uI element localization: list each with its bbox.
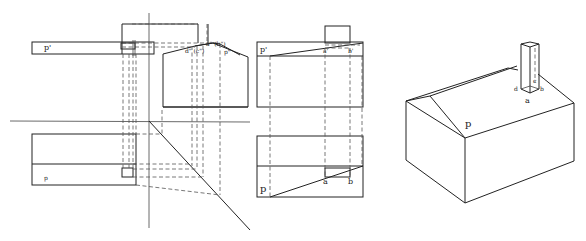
label-d-c-double-prime: d" (c") xyxy=(185,47,204,54)
label-p-prime: p' xyxy=(260,45,267,54)
technical-drawing: p' p a" (b") d" (c") p" p' a' b' p a b xyxy=(0,0,586,241)
middle-two-view: p' a' b' p a b xyxy=(257,26,363,197)
gable-end-face xyxy=(406,101,465,203)
label-a: a xyxy=(525,96,530,105)
miter-line xyxy=(149,121,250,230)
label-d: d xyxy=(514,85,518,92)
label-p-double-prime: p" xyxy=(224,48,231,56)
label-b-prime: b' xyxy=(348,47,354,54)
label-p-prime: p' xyxy=(44,43,51,52)
label-p: p xyxy=(465,118,471,129)
chimney xyxy=(521,42,539,93)
middle-top-chimney xyxy=(325,168,350,177)
label-b: b xyxy=(348,177,353,186)
isometric-house-view: p a b c d xyxy=(406,42,574,203)
left-orthographic-view: p' p a" (b") d" (c") p" xyxy=(10,13,250,230)
label-a: a xyxy=(323,177,328,186)
horizontal-axis-line xyxy=(10,121,250,122)
label-p: p xyxy=(260,183,266,194)
label-a-prime: a' xyxy=(323,47,329,54)
label-a-b-double-prime: a" (b") xyxy=(206,40,226,47)
label-c: c xyxy=(533,77,537,84)
label-p: p xyxy=(44,174,48,182)
top-view-chimney xyxy=(122,168,133,177)
label-b: b xyxy=(540,85,544,92)
middle-chimney-top xyxy=(325,26,350,43)
front-long-face xyxy=(465,103,574,203)
